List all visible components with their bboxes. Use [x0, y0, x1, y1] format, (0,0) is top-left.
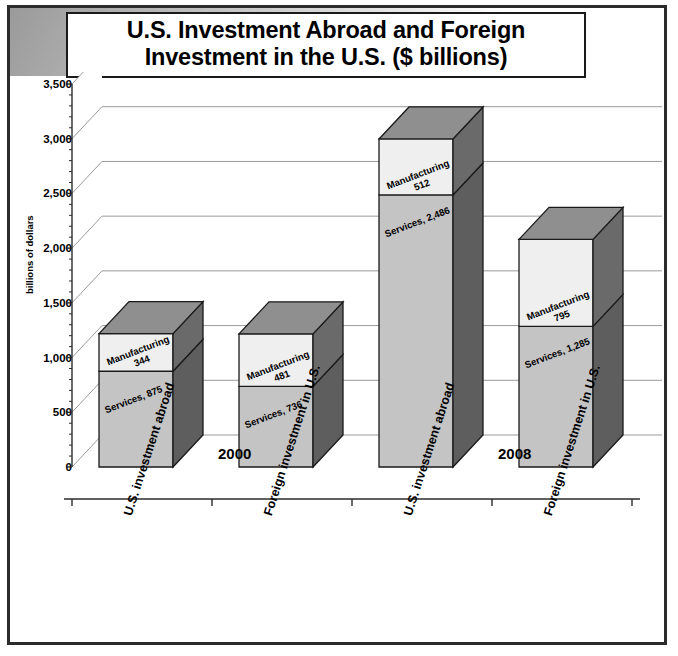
chart-title: U.S. Investment Abroad and Foreign Inves…: [66, 12, 586, 78]
chart-title-line-1: U.S. Investment Abroad and Foreign: [72, 17, 580, 44]
x-axis-group-label: 2000: [218, 445, 251, 462]
bar-column: [379, 107, 483, 467]
chart-frame: U.S. Investment Abroad and Foreign Inves…: [7, 5, 667, 645]
x-axis-group-label: 2008: [498, 445, 531, 462]
chart-title-line-2: Investment in the U.S. ($ billions): [72, 44, 580, 71]
plot-area: billions of dollars 05001,0001,5002,0002…: [10, 72, 664, 644]
